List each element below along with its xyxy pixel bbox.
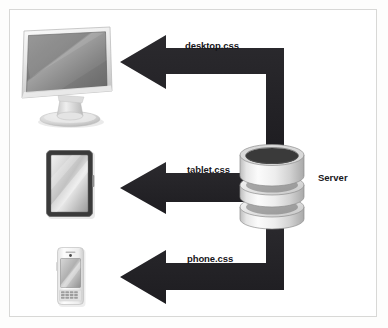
phone-css-label: phone.css: [187, 253, 233, 264]
database-stack-icon: [240, 145, 304, 230]
server-label: Server: [318, 172, 348, 183]
desktop-css-label: desktop.css: [185, 40, 239, 51]
diagram-canvas: desktop.css tablet.css phone.css Server: [0, 0, 388, 328]
tablet-css-label: tablet.css: [187, 164, 230, 175]
